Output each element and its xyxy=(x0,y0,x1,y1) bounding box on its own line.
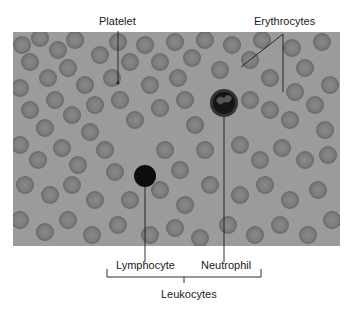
micrograph xyxy=(11,29,341,247)
neutrophil-label: Neutrophil xyxy=(201,260,251,271)
lymphocyte-cell xyxy=(134,165,156,187)
neutrophil-cell xyxy=(210,89,238,117)
lymphocyte-label: Lymphocyte xyxy=(116,260,175,271)
erythrocytes-label: Erythrocytes xyxy=(254,16,315,27)
leukocytes-bracket xyxy=(107,269,261,283)
leukocytes-label: Leukocytes xyxy=(161,289,217,300)
platelet-label: Platelet xyxy=(99,16,136,27)
blood-smear-diagram xyxy=(0,0,352,317)
